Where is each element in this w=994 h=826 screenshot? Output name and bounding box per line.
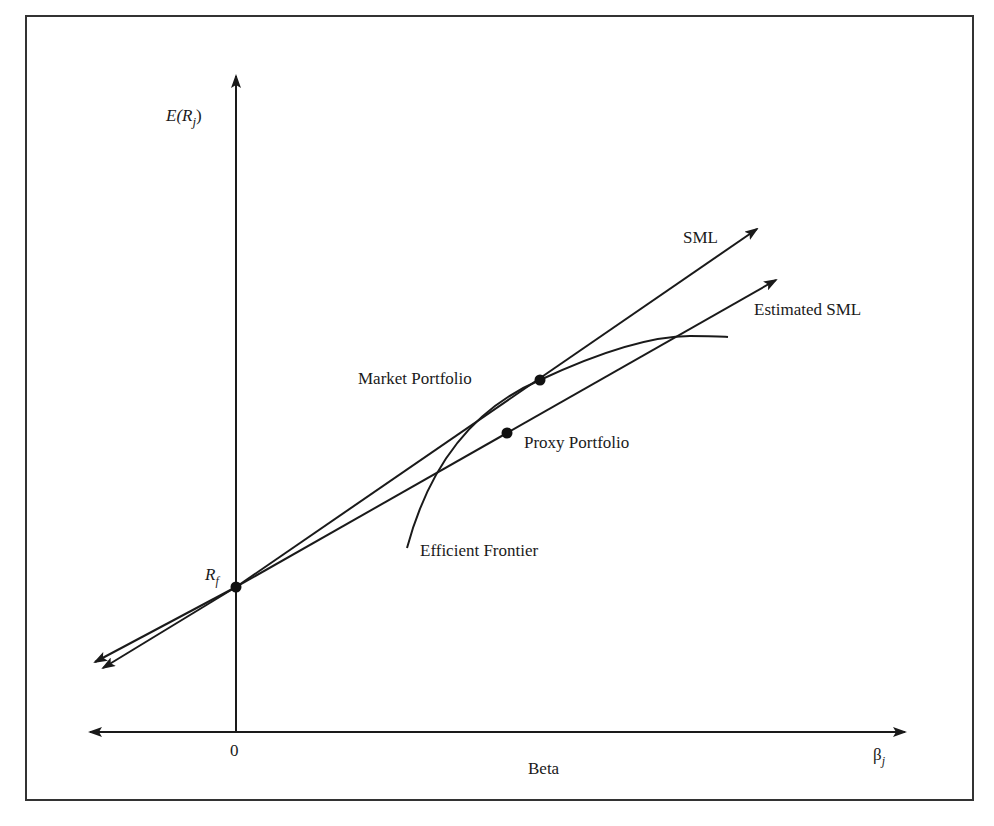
market-portfolio-label: Market Portfolio xyxy=(358,369,472,388)
figure: E(Rj) SML Estimated SML Market Portfolio… xyxy=(0,0,994,826)
sml-line xyxy=(236,229,757,587)
sml-label: SML xyxy=(683,228,718,247)
market-portfolio-point xyxy=(535,375,546,386)
origin-tick-label: 0 xyxy=(230,741,239,760)
proxy-portfolio-point xyxy=(502,428,513,439)
y-axis-label: E(Rj) xyxy=(165,106,202,129)
efficient-frontier-label: Efficient Frontier xyxy=(420,541,539,560)
sml-line-left xyxy=(95,587,236,662)
estimated-sml-line-left xyxy=(103,587,236,668)
x-axis-caption: Beta xyxy=(528,759,560,778)
figure-frame xyxy=(26,16,973,800)
rf-label: Rf xyxy=(204,565,220,588)
sml-diagram: E(Rj) SML Estimated SML Market Portfolio… xyxy=(0,0,994,826)
risk-free-point xyxy=(231,582,242,593)
x-axis-label: βj xyxy=(873,745,886,768)
estimated-sml-label: Estimated SML xyxy=(754,300,861,319)
proxy-portfolio-label: Proxy Portfolio xyxy=(524,433,629,452)
